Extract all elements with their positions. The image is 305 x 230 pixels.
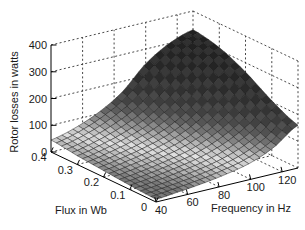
- z-tick-label: 100: [29, 119, 47, 131]
- freq-tick-label: 60: [186, 196, 198, 208]
- freq-tick-label: 100: [247, 181, 265, 193]
- z-axis-label: Rotor losses in watts: [9, 51, 20, 152]
- flux-tick-label: 0.2: [84, 176, 99, 188]
- flux-tick-label: 0.3: [58, 164, 73, 176]
- z-tick-label: 400: [29, 39, 47, 51]
- freq-tick-label: 80: [218, 189, 230, 201]
- freq-tick-label: 120: [278, 174, 296, 186]
- x-axis-label: Frequency in Hz: [211, 203, 291, 214]
- flux-tick-label: 0.1: [110, 189, 125, 201]
- surface-plot-figure: 010020030040000.10.20.30.4406080100120 R…: [0, 0, 305, 230]
- z-tick-label: 200: [29, 93, 47, 105]
- flux-tick-label: 0: [141, 201, 147, 213]
- freq-tick-label: 40: [155, 204, 167, 216]
- surface-mesh: [51, 30, 298, 200]
- flux-tick-label: 0.4: [31, 151, 46, 163]
- y-axis-label: Flux in Wb: [55, 205, 107, 216]
- surface-plot-canvas: 010020030040000.10.20.30.4406080100120: [0, 0, 305, 230]
- z-tick-label: 300: [29, 66, 47, 78]
